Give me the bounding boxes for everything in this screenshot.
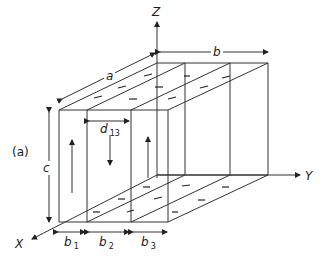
dim-b2-label: b2 xyxy=(99,236,114,248)
dim-b1-label: b1 xyxy=(64,236,79,248)
x-axis-label: X xyxy=(15,238,23,250)
dim-b3-label: b3 xyxy=(141,236,156,248)
panel-label: (a) xyxy=(12,146,29,158)
dim-d13-label: d13 xyxy=(100,123,120,135)
dim-b-label: b xyxy=(211,46,223,58)
y-axis-label: Y xyxy=(305,170,312,182)
block-diagram xyxy=(0,0,324,266)
dim-c-label: c xyxy=(43,161,50,175)
diagram-canvas: Z Y X (a) a b c d13 b1 b2 b3 xyxy=(0,0,324,266)
dim-a-label: a xyxy=(104,70,115,82)
z-axis-label: Z xyxy=(152,6,160,18)
x-axis xyxy=(32,175,157,239)
